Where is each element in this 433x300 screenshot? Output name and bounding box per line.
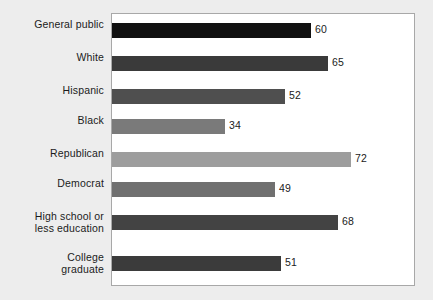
bar-row: High school orless education68 [0, 211, 433, 233]
category-label: Democrat [0, 178, 104, 190]
bar [112, 152, 351, 167]
bar-row: Republican72 [0, 148, 433, 170]
category-label: Collegegraduate [0, 252, 104, 275]
bar-chart-figure: General public60White65Hispanic52Black34… [0, 0, 433, 300]
bar-row: White65 [0, 52, 433, 74]
bar-value-label: 65 [332, 55, 344, 70]
bar-row: Black34 [0, 115, 433, 137]
bar-row: General public60 [0, 19, 433, 41]
bar [112, 89, 285, 104]
bar-track: 49 [112, 178, 414, 200]
bar-value-label: 34 [229, 118, 241, 133]
category-label: Black [0, 115, 104, 127]
category-label: Republican [0, 148, 104, 160]
bar-row: Collegegraduate51 [0, 252, 433, 274]
bar-track: 52 [112, 85, 414, 107]
bar-track: 65 [112, 52, 414, 74]
bar [112, 56, 328, 71]
bar-track: 51 [112, 252, 414, 274]
bar-value-label: 51 [285, 255, 297, 270]
bar-track: 72 [112, 148, 414, 170]
category-label: White [0, 52, 104, 64]
category-label-line1: Hispanic [63, 84, 104, 96]
bar-row: Hispanic52 [0, 85, 433, 107]
bar-track: 60 [112, 19, 414, 41]
bar-value-label: 49 [279, 181, 291, 196]
bar-track: 34 [112, 115, 414, 137]
category-label-line1: White [76, 51, 104, 63]
bar [112, 119, 225, 134]
bar-row: Democrat49 [0, 178, 433, 200]
category-label: Hispanic [0, 85, 104, 97]
bar [112, 256, 281, 271]
category-label-line2: graduate [0, 264, 104, 276]
category-label: High school orless education [0, 211, 104, 234]
category-label-line1: High school or [35, 210, 104, 222]
bar [112, 215, 338, 230]
category-label: General public [0, 19, 104, 31]
bar-track: 68 [112, 211, 414, 233]
bar-value-label: 52 [289, 88, 301, 103]
bar-value-label: 72 [355, 151, 367, 166]
category-label-line1: General public [34, 18, 104, 30]
bar-value-label: 60 [315, 22, 327, 37]
category-label-line1: College [67, 251, 104, 263]
category-label-line1: Black [78, 114, 104, 126]
category-label-line1: Republican [50, 147, 104, 159]
category-label-line1: Democrat [57, 177, 104, 189]
category-label-line2: less education [0, 223, 104, 235]
bar [112, 182, 275, 197]
bar-value-label: 68 [342, 214, 354, 229]
bar [112, 23, 311, 38]
